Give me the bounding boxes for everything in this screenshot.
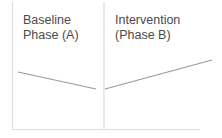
intervention-label-line2: (Phase B) bbox=[115, 28, 180, 43]
baseline-trend-line bbox=[18, 72, 96, 89]
baseline-phase-label: Baseline Phase (A) bbox=[23, 13, 79, 43]
baseline-label-line1: Baseline bbox=[23, 13, 79, 28]
intervention-trend-line bbox=[105, 60, 212, 89]
baseline-label-line2: Phase (A) bbox=[23, 28, 79, 43]
intervention-phase-label: Intervention (Phase B) bbox=[115, 13, 180, 43]
intervention-label-line1: Intervention bbox=[115, 13, 180, 28]
